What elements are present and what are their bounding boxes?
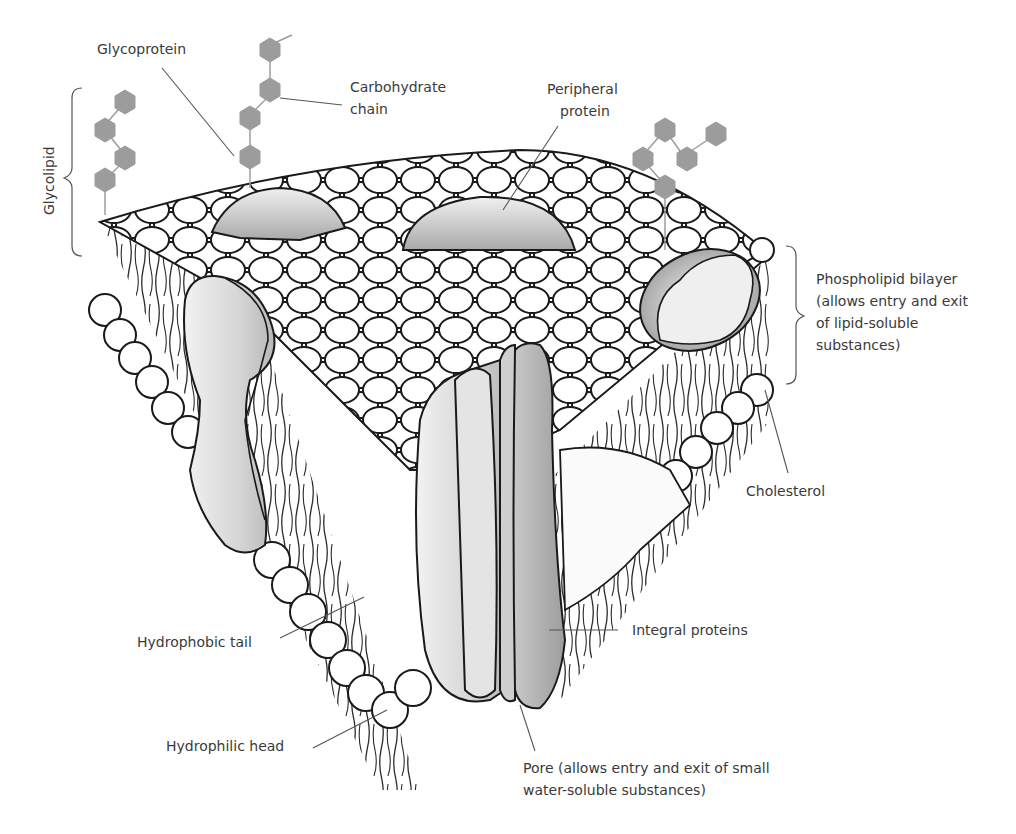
glycoprotein-label: Glycoprotein [97, 40, 186, 59]
phospholipid-bilayer-label-line4: substances) [816, 336, 900, 355]
cholesterol-label: Cholesterol [746, 482, 825, 501]
phospholipid-bilayer-label-line2: (allows entry and exit [816, 292, 968, 311]
hydrophilic-head-label: Hydrophilic head [166, 737, 284, 756]
integral-proteins-label: Integral proteins [632, 621, 748, 640]
glycolipid-label: Glycolipid [40, 146, 59, 215]
pore-label-line2: water-soluble substances) [523, 781, 706, 800]
phospholipid-bilayer-label-line1: Phospholipid bilayer [816, 270, 957, 289]
pore-channel-protein [416, 343, 565, 708]
peripheral-protein-label-line2: protein [560, 102, 610, 121]
glycolipid-brace [64, 88, 82, 256]
membrane-diagram [0, 0, 1016, 834]
phospholipid-bilayer-label-line3: of lipid-soluble [816, 314, 918, 333]
pore-label-line1: Pore (allows entry and exit of small [523, 759, 770, 778]
carbohydrate-chain-label-line1: Carbohydrate [350, 78, 446, 97]
carbohydrate-chain-label-line2: chain [350, 100, 388, 119]
bilayer-brace [786, 246, 804, 384]
peripheral-protein-label-line1: Peripheral [547, 80, 618, 99]
hydrophobic-tail-label: Hydrophobic tail [137, 633, 252, 652]
glycoprotein-carbohydrate-chain [240, 35, 292, 188]
glycolipid-carbohydrate-chain [95, 90, 135, 215]
